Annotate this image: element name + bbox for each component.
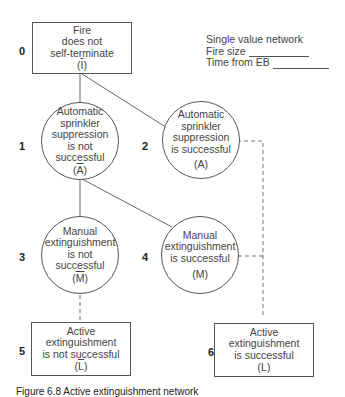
legend: Single value network Fire size Time from…	[206, 34, 329, 69]
node-manual-not-successful: Manual extinguishment is not successful …	[41, 216, 119, 294]
node-text: does not	[62, 36, 102, 48]
node-number-5: 5	[19, 345, 25, 357]
node-text: suppression	[52, 129, 109, 141]
edge-2-6-a	[237, 141, 263, 318]
node-symbol: (M)	[72, 273, 88, 285]
node-active-not-successful: Active extinguishment is not successful …	[31, 322, 131, 376]
node-active-successful: Active extinguishment is successful (L)	[214, 323, 314, 377]
node-text: is successful	[171, 144, 231, 156]
node-number-3: 3	[19, 251, 25, 263]
node-text: extinguishment	[165, 241, 236, 253]
legend-title: Single value network	[206, 34, 329, 46]
node-symbol: (A)	[73, 165, 87, 177]
node-text: successful	[55, 152, 104, 164]
node-text: extinguishment	[46, 337, 117, 349]
node-symbol: (L)	[258, 362, 271, 374]
node-symbol: (I)	[77, 60, 87, 72]
figure-caption: Figure 6.8 Active extinguishment network	[16, 386, 198, 397]
node-text: is successful	[170, 253, 230, 265]
node-manual-successful: Manual extinguishment is successful (M)	[161, 216, 239, 294]
node-fire-does-not-self-terminate: Fire does not self-terminate (I)	[32, 22, 132, 74]
node-number-4: 4	[142, 251, 148, 263]
node-symbol: (M)	[192, 269, 208, 281]
node-text: Automatic	[57, 106, 104, 118]
node-symbol: (A)	[194, 159, 208, 171]
node-text: is not successful	[42, 349, 119, 361]
time-from-eb-label: Time from EB	[206, 57, 270, 69]
time-from-eb-blank	[273, 59, 329, 69]
node-number-0: 0	[19, 45, 25, 57]
node-number-2: 2	[142, 140, 148, 152]
node-text: is successful	[234, 350, 294, 362]
node-number-1: 1	[19, 140, 25, 152]
node-symbol: (L)	[75, 361, 88, 373]
node-sprinkler-not-successful: Automatic sprinkler suppression is not s…	[41, 102, 119, 180]
node-sprinkler-successful: Automatic sprinkler suppression is succe…	[162, 101, 240, 179]
node-text: successful	[55, 260, 104, 272]
node-text: extinguishment	[229, 338, 300, 350]
node-text: self-terminate	[50, 48, 114, 60]
